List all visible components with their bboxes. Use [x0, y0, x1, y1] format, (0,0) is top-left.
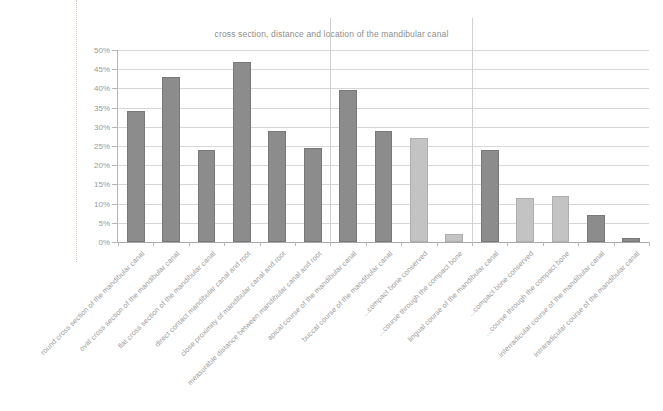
x-axis-category-label: oval cross section of the mandibular can… [77, 249, 181, 353]
x-axis-tick [366, 242, 367, 246]
y-axis-tick-label: 25% [70, 142, 110, 151]
x-axis-tick [401, 242, 402, 246]
y-axis-tick-label: 15% [70, 180, 110, 189]
x-axis-tick [437, 242, 438, 246]
x-axis-tick [507, 242, 508, 246]
y-axis-tick-label: 10% [70, 199, 110, 208]
x-axis-ticks [118, 242, 649, 247]
x-axis-category-label: ...course through the compact bone [376, 249, 465, 338]
x-axis-tick [118, 242, 119, 246]
bar [233, 62, 251, 242]
x-axis-tick [649, 242, 650, 246]
bar [410, 138, 428, 242]
x-axis-category-label: flat cross section of the mandibular can… [115, 249, 216, 350]
x-axis-tick [543, 242, 544, 246]
y-axis-tick-label: 35% [70, 103, 110, 112]
group-separator [330, 18, 331, 242]
x-axis-tick [578, 242, 579, 246]
y-axis-tick-label: 20% [70, 161, 110, 170]
x-axis-category-label: buccal course of the mandibular canal [299, 249, 394, 344]
x-axis-tick [614, 242, 615, 246]
bar [339, 90, 357, 242]
y-axis-tick-label: 5% [70, 218, 110, 227]
x-axis-tick [224, 242, 225, 246]
x-axis-category-label: close proximity of mandibular canal and … [179, 249, 288, 358]
bar [445, 234, 463, 242]
bars [118, 50, 649, 242]
bar [552, 196, 570, 242]
x-axis-tick [330, 242, 331, 246]
x-axis-category-label: round cross section of the mandibular ca… [38, 249, 146, 357]
x-axis-category-label: lingual course of the mandibular canal [405, 249, 500, 344]
bar [198, 150, 216, 242]
bar-chart: cross section, distance and location of … [0, 0, 663, 411]
y-axis-tick-label: 45% [70, 65, 110, 74]
x-axis-tick [260, 242, 261, 246]
y-axis-labels: 0%5%10%15%20%25%30%35%40%45%50% [66, 50, 110, 242]
x-axis-category-label: measurable distance between mandibular c… [185, 249, 323, 387]
bar [304, 148, 322, 242]
bar [587, 215, 605, 242]
y-axis-tick-label: 30% [70, 122, 110, 131]
x-axis-category-label: ...course through the compact bone [482, 249, 571, 338]
x-axis-category-label: direct contact mandibular canal and root [153, 249, 253, 349]
bar [375, 131, 393, 242]
y-axis-tick-label: 0% [70, 238, 110, 247]
bar [127, 111, 145, 242]
x-axis-tick [472, 242, 473, 246]
bar [162, 77, 180, 242]
bar [481, 150, 499, 242]
x-axis-category-label: apical course of the mandibular canal [265, 249, 358, 342]
chart-title: cross section, distance and location of … [0, 29, 663, 39]
group-separator [472, 18, 473, 242]
x-axis-tick [153, 242, 154, 246]
bar [268, 131, 286, 242]
bar [516, 198, 534, 242]
x-axis-category-label: intraradicular course of the mandibular … [532, 249, 642, 359]
y-axis-tick-label: 50% [70, 46, 110, 55]
x-axis-category-label: ...compact bone conserved [466, 249, 535, 318]
x-axis-tick [295, 242, 296, 246]
x-axis-category-label: ...compact bone conserved [360, 249, 429, 318]
x-axis-tick [189, 242, 190, 246]
y-axis-tick-label: 40% [70, 84, 110, 93]
x-axis-category-label: interradicular course of the mandibular … [496, 249, 606, 359]
